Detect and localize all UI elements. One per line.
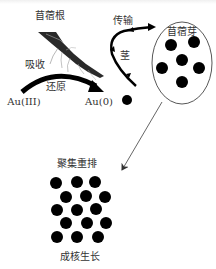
sprout-particle [176,76,188,88]
sprout-particle [156,62,168,74]
alfalfa-gold-nanoparticle-diagram [0,0,216,269]
sprout-label: 苜蓿芽 [167,27,197,37]
aggregation-arrow [122,102,162,170]
stem-label: 茎 [120,51,130,61]
sprout-particle [193,62,205,74]
stem-transport-arrow [110,23,156,86]
sprout-particle [165,39,177,51]
alfalfa-root-illustration [38,32,104,80]
nucleation-label: 成核生长 [60,252,100,262]
root-label: 苜蓿根 [35,11,65,21]
absorb-label: 吸收 [25,60,45,70]
aggregate-label: 聚集重排 [57,159,97,169]
au3-label: Au(III) [7,97,40,107]
nanoparticle-cluster [50,176,112,243]
au0-particle [122,95,132,105]
transport-label: 传输 [113,16,133,26]
sprout-particle [188,36,200,48]
sprout-particle [176,54,188,66]
reduce-label: 还原 [46,82,66,92]
au0-label: Au(0) [85,97,113,107]
